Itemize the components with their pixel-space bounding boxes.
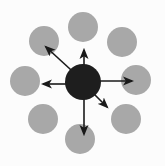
node-top-left	[29, 26, 59, 56]
arrow-down-right	[94, 94, 107, 107]
node-bottom-right	[111, 104, 141, 134]
node-right	[121, 65, 151, 95]
node-top-right	[107, 27, 137, 57]
node-bottom	[65, 124, 95, 154]
node-left	[10, 66, 40, 96]
node-bottom-left	[28, 104, 58, 134]
node-top	[68, 12, 98, 42]
hub-spoke-diagram	[0, 0, 165, 166]
diagram-canvas	[0, 0, 165, 166]
hub-node	[65, 64, 101, 100]
